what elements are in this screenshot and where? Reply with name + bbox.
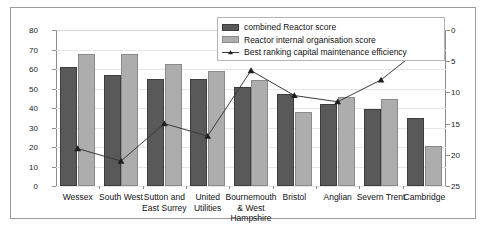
legend-item-reactor-internal-organisation-score: Reactor internal organisation score — [222, 34, 440, 47]
line-best-ranking-capital-maintenance-efficiency — [78, 46, 425, 161]
line-marker — [291, 92, 298, 98]
legend-swatch-dark-icon — [222, 24, 239, 31]
legend-label: Best ranking capital maintenance efficie… — [244, 47, 407, 57]
chart-legend: combined Reactor score Reactor internal … — [217, 17, 445, 61]
line-marker — [248, 67, 255, 73]
line-marker — [74, 145, 81, 151]
legend-label: combined Reactor score — [244, 22, 336, 32]
legend-label: Reactor internal organisation score — [244, 35, 376, 45]
legend-line-marker-icon — [222, 49, 239, 56]
legend-swatch-light-icon — [222, 36, 239, 43]
legend-item-best-ranking-capital-maintenance-efficiency: Best ranking capital maintenance efficie… — [222, 46, 440, 59]
line-marker — [161, 120, 168, 126]
legend-item-combined-reactor-score: combined Reactor score — [222, 21, 440, 34]
chart-frame: 01020304050607080 0510152025 WessexSouth… — [10, 7, 476, 219]
